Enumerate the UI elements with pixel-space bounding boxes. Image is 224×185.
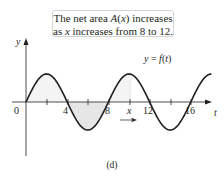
tick-label-16: 16 <box>185 105 195 116</box>
tick-label-8: 8 <box>105 105 110 116</box>
y-axis-arrow-icon <box>24 38 29 45</box>
t-axis-arrow-icon <box>205 100 212 105</box>
tick-label-12: 12 <box>143 105 153 116</box>
tick-label-x: x <box>126 105 132 116</box>
graph: y t 0 4 8 x 12 16 y = f(t) <box>0 0 224 185</box>
y-axis-label: y <box>15 36 21 47</box>
shaded-region-8-x <box>108 74 129 102</box>
t-axis-label: t <box>214 107 217 118</box>
tick-label-0: 0 <box>14 105 19 116</box>
figure-caption: (d) <box>0 160 224 170</box>
function-label: y = f(t) <box>143 53 171 65</box>
tick-label-4: 4 <box>63 105 68 116</box>
